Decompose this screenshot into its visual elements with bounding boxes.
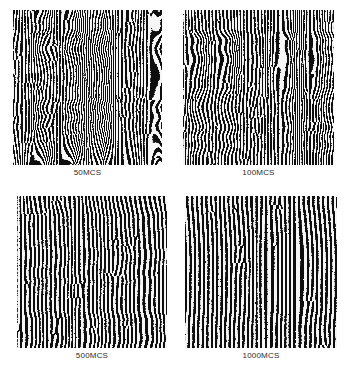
stripe-pattern-image-100mcs [183,10,334,165]
panel-500mcs: 500MCS [17,196,167,360]
stripe-pattern-canvas [185,196,337,348]
stripe-pattern-image-50mcs [13,10,162,165]
stripe-pattern-image-500mcs [17,196,167,348]
stripe-pattern-canvas [13,10,162,165]
panel-1000mcs: 1000MCS [185,196,337,360]
figure-panel-grid: 50MCS100MCS500MCS1000MCS [0,0,348,377]
stripe-pattern-image-1000mcs [185,196,337,348]
panel-label-100mcs: 100MCS [183,168,334,178]
stripe-pattern-canvas [17,196,167,348]
panel-label-500mcs: 500MCS [17,351,167,361]
panel-label-50mcs: 50MCS [13,168,162,178]
stripe-pattern-canvas [183,10,334,165]
panel-100mcs: 100MCS [183,10,334,177]
panel-label-1000mcs: 1000MCS [185,351,337,361]
panel-50mcs: 50MCS [13,10,162,177]
